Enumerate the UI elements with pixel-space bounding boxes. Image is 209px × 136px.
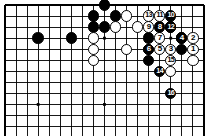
stone-black	[88, 10, 99, 21]
move-number: 13	[145, 12, 152, 19]
stone-black	[110, 10, 121, 21]
stone-black	[88, 21, 99, 32]
stone-white	[88, 55, 99, 66]
move-stone-1: 1	[187, 44, 198, 55]
stone-white	[121, 44, 132, 55]
move-number: 15	[167, 57, 174, 64]
move-number: 1	[191, 45, 195, 53]
stone-white	[110, 21, 121, 32]
move-stone-5: 5	[154, 44, 165, 55]
go-board-diagram: 12345678910111213141516	[0, 0, 209, 136]
move-number: 7	[158, 34, 162, 42]
stone-black	[176, 44, 187, 55]
move-stone-13: 13	[143, 10, 154, 21]
move-number: 8	[158, 23, 162, 31]
stone-white	[121, 10, 132, 21]
move-number: 9	[147, 23, 151, 31]
move-stone-9: 9	[143, 21, 154, 32]
move-number: 4	[180, 34, 184, 42]
move-stone-3: 3	[165, 44, 176, 55]
stone-black	[66, 32, 77, 43]
move-stone-16: 16	[165, 88, 176, 99]
move-number: 12	[167, 24, 174, 31]
stone-black	[143, 32, 154, 43]
move-stone-8: 8	[154, 21, 165, 32]
move-number: 10	[167, 12, 174, 19]
move-number: 14	[156, 68, 163, 75]
move-number: 16	[167, 90, 174, 97]
stone-black	[99, 0, 110, 11]
stone-black	[32, 32, 43, 43]
move-stone-4: 4	[176, 32, 187, 43]
move-number: 6	[147, 45, 151, 53]
move-number: 11	[157, 12, 163, 19]
move-stone-2: 2	[187, 32, 198, 43]
stone-black	[99, 21, 110, 32]
move-stone-14: 14	[154, 66, 165, 77]
move-number: 5	[158, 45, 162, 53]
move-stone-15: 15	[165, 55, 176, 66]
move-stone-11: 11	[154, 10, 165, 21]
stone-white	[88, 44, 99, 55]
move-stone-10: 10	[165, 10, 176, 21]
move-stone-7: 7	[154, 32, 165, 43]
move-stone-12: 12	[165, 21, 176, 32]
stone-white	[88, 32, 99, 43]
stone-layer: 12345678910111213141516	[0, 0, 209, 136]
stone-white	[165, 66, 176, 77]
stone-black	[143, 55, 154, 66]
move-number: 2	[191, 34, 195, 42]
move-number: 3	[169, 45, 173, 53]
move-stone-6: 6	[143, 44, 154, 55]
stone-white	[187, 55, 198, 66]
stone-white	[132, 21, 143, 32]
